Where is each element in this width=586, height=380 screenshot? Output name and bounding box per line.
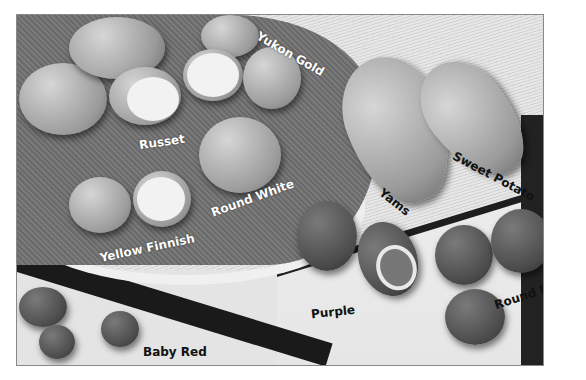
purple-potato: [297, 201, 357, 271]
potato-varieties-photo: Yukon Gold Russet Round White Yellow Fin…: [16, 14, 544, 366]
baby-red-potato: [19, 287, 67, 327]
round-red-potato: [435, 225, 493, 285]
round-white-potato: [199, 117, 281, 193]
yellow-finnish-potato: [69, 177, 131, 233]
yellow-finnish-potato-cut: [133, 171, 191, 227]
round-red-potato: [491, 209, 544, 273]
baby-red-potato: [39, 325, 75, 359]
russet-potato-cut: [109, 67, 181, 125]
yukon-gold-potato-cut: [183, 49, 243, 101]
label-baby-red: Baby Red: [143, 345, 207, 359]
baby-red-potato: [101, 311, 139, 347]
